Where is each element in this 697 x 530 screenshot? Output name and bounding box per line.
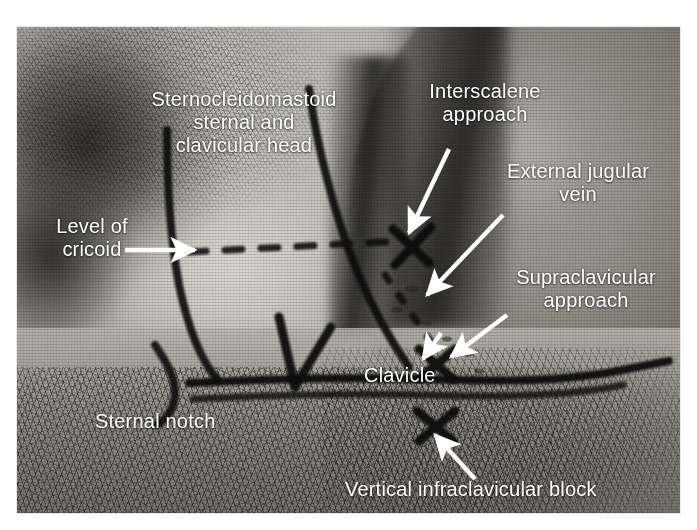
clavicle-leader-arrow bbox=[423, 333, 441, 359]
label-sternocleidomastoid: Sternocleidomastoid sternal and clavicul… bbox=[126, 88, 362, 157]
label-interscalene-approach: Interscalene approach bbox=[405, 80, 565, 126]
label-clavicle: Clavicle bbox=[364, 364, 464, 387]
infraclavicular-leader-arrow bbox=[435, 435, 475, 479]
external-jugular-leader-arrow bbox=[427, 215, 503, 295]
interscalene-leader-arrow bbox=[409, 149, 449, 233]
label-vertical-infraclavicular-block: Vertical infraclavicular block bbox=[345, 478, 675, 501]
supraclavicular-leader-arrow bbox=[451, 315, 507, 357]
label-level-of-cricoid: Level of cricoid bbox=[32, 215, 152, 261]
label-sternal-notch: Sternal notch bbox=[95, 410, 275, 433]
anatomy-figure: Sternocleidomastoid sternal and clavicul… bbox=[0, 0, 697, 530]
label-external-jugular-vein: External jugular vein bbox=[478, 160, 678, 206]
label-supraclavicular-approach: Supraclavicular approach bbox=[496, 266, 676, 312]
